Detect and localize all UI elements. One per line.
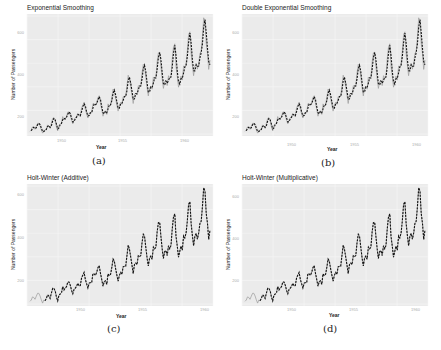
y-tick: 200 — [10, 278, 24, 283]
x-axis-label: Year — [327, 146, 338, 152]
y-tick: 600 — [10, 192, 24, 197]
y-tick: 200 — [10, 114, 24, 119]
y-axis-label: Number of Passengers — [225, 200, 231, 270]
x-tick: 1960 — [200, 307, 209, 312]
line-chart — [0, 0, 220, 175]
y-tick: 200 — [225, 278, 239, 283]
x-axis-label: Year — [329, 312, 340, 318]
line-chart — [215, 0, 435, 175]
subfigure-label: (c) — [107, 323, 120, 334]
y-tick: 400 — [10, 235, 24, 240]
x-tick: 1955 — [349, 307, 358, 312]
x-tick: 1950 — [76, 307, 85, 312]
x-tick: 1960 — [412, 142, 421, 147]
line-chart — [0, 170, 220, 345]
y-tick: 400 — [225, 236, 239, 241]
subfigure-label: (d) — [323, 323, 337, 334]
panel-d: Holt-Winter (Multiplicative) Number of P… — [215, 170, 435, 345]
x-tick: 1955 — [118, 138, 127, 143]
x-tick: 1955 — [138, 307, 147, 312]
x-axis-label: Year — [96, 144, 107, 150]
panel-a: Exponential Smoothing Number of Passenge… — [0, 0, 220, 175]
panel-c: Holt-Winter (Additive) Number of Passeng… — [0, 170, 220, 345]
x-tick: 1950 — [287, 307, 296, 312]
y-axis-label: Number of Passengers — [225, 30, 231, 100]
y-tick: 400 — [225, 72, 239, 77]
line-chart — [215, 170, 435, 345]
subfigure-label: (a) — [92, 155, 106, 166]
x-tick: 1955 — [350, 142, 359, 147]
x-tick: 1960 — [180, 138, 189, 143]
y-tick: 600 — [225, 30, 239, 35]
y-tick: 400 — [10, 72, 24, 77]
subfigure-label: (b) — [321, 157, 335, 168]
y-tick: 600 — [225, 194, 239, 199]
y-tick: 600 — [10, 30, 24, 35]
x-tick: 1950 — [287, 142, 296, 147]
panel-b: Double Exponential Smoothing Number of P… — [215, 0, 435, 175]
x-axis-label: Year — [116, 313, 127, 319]
y-axis-label: Number of Passengers — [10, 30, 16, 100]
y-tick: 200 — [225, 114, 239, 119]
x-tick: 1950 — [57, 138, 66, 143]
x-tick: 1960 — [411, 307, 420, 312]
